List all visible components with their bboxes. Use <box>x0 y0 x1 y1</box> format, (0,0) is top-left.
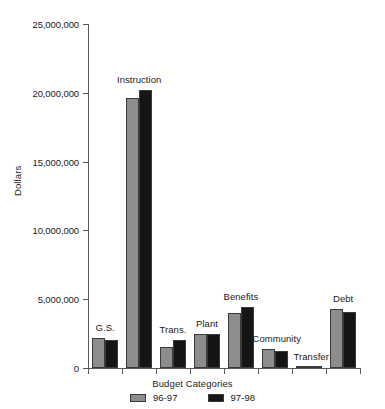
bar <box>207 334 220 368</box>
y-axis-tick <box>83 299 89 300</box>
bar-group <box>92 24 118 368</box>
y-axis-title: Dollars <box>12 166 23 196</box>
bar-group <box>330 24 356 368</box>
y-axis-tick-label: 15,000,000 <box>32 156 79 167</box>
y-axis-tick <box>83 93 89 94</box>
x-axis-tick <box>156 368 157 374</box>
bar <box>262 349 275 368</box>
y-axis-tick-label: 0 <box>74 363 79 374</box>
x-axis-tick <box>326 368 327 374</box>
y-axis-tick-label: 20,000,000 <box>32 87 79 98</box>
bar <box>228 313 241 368</box>
bar <box>194 334 207 368</box>
x-axis-title: Budget Categories <box>0 378 385 389</box>
bar <box>309 366 322 368</box>
x-axis-tick <box>190 368 191 374</box>
plot-area: 05,000,00010,000,00015,000,00020,000,000… <box>88 24 360 368</box>
x-axis-tick <box>122 368 123 374</box>
bar <box>173 340 186 368</box>
y-axis-tick-label: 10,000,000 <box>32 225 79 236</box>
x-axis-category-label: Community <box>253 333 302 344</box>
y-axis-tick <box>83 162 89 163</box>
bar-group <box>296 24 322 368</box>
bar-group <box>194 24 220 368</box>
bar <box>92 338 105 368</box>
x-axis-category-label: Debt <box>333 293 353 304</box>
x-axis-tick <box>360 368 361 374</box>
bar <box>126 98 139 368</box>
legend-swatch-icon <box>208 394 224 402</box>
bar <box>343 312 356 368</box>
bar-chart: Dollars 05,000,00010,000,00015,000,00020… <box>0 0 385 409</box>
chart-legend: 96-9797-98 <box>0 392 385 403</box>
bar-group <box>160 24 186 368</box>
y-axis-tick-label: 25,000,000 <box>32 19 79 30</box>
bar <box>139 90 152 368</box>
x-axis-category-label: Plant <box>196 318 218 329</box>
legend-label: 96-97 <box>153 392 178 403</box>
x-axis-category-label: Benefits <box>224 291 259 302</box>
bar <box>275 351 288 368</box>
x-axis-category-label: Transfer <box>294 351 329 362</box>
x-axis-category-label: Instruction <box>117 74 161 85</box>
x-axis-category-label: Trans. <box>160 324 187 335</box>
x-axis-category-label: G.S. <box>96 322 115 333</box>
bar <box>296 366 309 368</box>
bar <box>105 340 118 368</box>
x-axis-tick <box>88 368 89 374</box>
legend-item: 96-97 <box>130 392 178 403</box>
bar-group <box>262 24 288 368</box>
x-axis-tick <box>224 368 225 374</box>
bar-group <box>228 24 254 368</box>
x-axis-tick <box>258 368 259 374</box>
x-axis-tick <box>292 368 293 374</box>
bar <box>160 347 173 368</box>
legend-item: 97-98 <box>208 392 256 403</box>
bar <box>330 309 343 368</box>
legend-label: 97-98 <box>231 392 256 403</box>
legend-swatch-icon <box>130 394 146 402</box>
y-axis-tick <box>83 230 89 231</box>
y-axis-tick <box>83 24 89 25</box>
y-axis-tick-label: 5,000,000 <box>38 294 79 305</box>
